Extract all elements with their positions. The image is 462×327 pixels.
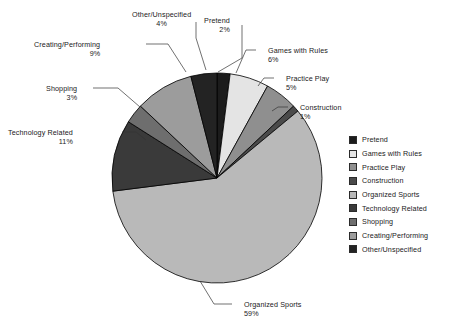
pie-slice-callout: Shopping3% [46,84,77,102]
callout-percent-label: 11% [8,137,73,146]
callout-percent-label: 9% [34,49,100,58]
pie-slice-group [112,73,322,283]
pie-slice-callout: Creating/Performing9% [34,40,100,58]
legend-item-label: Creating/Performing [362,231,428,240]
callout-category-label: Organized Sports [244,300,302,309]
callout-percent-label: 1% [300,112,342,121]
legend-swatch-icon [349,218,357,226]
legend-swatch-icon [349,204,357,212]
legend-item[interactable]: Practice Play [349,160,428,174]
legend-swatch-icon [349,163,357,171]
pie-slice-callout: Pretend2% [204,16,230,34]
legend-item-label: Pretend [362,135,388,144]
legend-item[interactable]: Shopping [349,215,428,229]
pie-slice-callout: Technology Related11% [8,128,73,146]
legend-swatch-icon [349,245,357,253]
callout-category-label: Creating/Performing [34,40,100,49]
callout-category-label: Construction [300,103,342,112]
callout-leader-line [236,50,256,73]
callout-category-label: Games with Rules [268,46,328,55]
callout-leader-line [200,281,232,304]
pie-chart-figure: Pretend2%Games with Rules6%Practice Play… [0,0,462,327]
legend-item[interactable]: Construction [349,174,428,188]
callout-percent-label: 2% [204,25,230,34]
callout-percent-label: 5% [286,83,329,92]
legend-item[interactable]: Other/Unspecified [349,243,428,257]
legend-item-label: Games with Rules [362,149,422,158]
callout-percent-label: 4% [132,19,191,28]
pie-slice-callout: Other/Unspecified4% [132,10,191,28]
legend-item-label: Other/Unspecified [362,245,421,254]
legend-swatch-icon [349,136,357,144]
legend-swatch-icon [349,191,357,199]
callout-category-label: Practice Play [286,74,329,83]
pie-slice-callout: Practice Play5% [286,74,329,92]
callout-category-label: Shopping [46,84,77,93]
pie-slice-callout: Organized Sports59% [244,300,302,318]
legend-item[interactable]: Pretend [349,133,428,147]
callout-category-label: Other/Unspecified [132,10,191,19]
legend-item[interactable]: Games with Rules [349,147,428,161]
callout-category-label: Technology Related [8,128,73,137]
callout-percent-label: 6% [268,55,328,64]
legend-item-label: Organized Sports [362,190,420,199]
callout-category-label: Pretend [204,16,230,25]
pie-slice-callout: Construction1% [300,103,342,121]
legend-item-label: Practice Play [362,163,405,172]
legend-item[interactable]: Technology Related [349,201,428,215]
chart-legend: PretendGames with RulesPractice PlayCons… [349,133,428,256]
callout-leader-line [93,88,140,107]
callout-leader-line [146,44,186,72]
callout-percent-label: 59% [244,309,302,318]
legend-item-label: Construction [362,176,404,185]
legend-item[interactable]: Creating/Performing [349,229,428,243]
callout-percent-label: 3% [46,93,77,102]
legend-item[interactable]: Organized Sports [349,188,428,202]
pie-slice-callout: Games with Rules6% [268,46,328,64]
legend-swatch-icon [349,150,357,158]
legend-swatch-icon [349,232,357,240]
legend-item-label: Technology Related [362,204,427,213]
legend-item-label: Shopping [362,217,393,226]
legend-swatch-icon [349,177,357,185]
